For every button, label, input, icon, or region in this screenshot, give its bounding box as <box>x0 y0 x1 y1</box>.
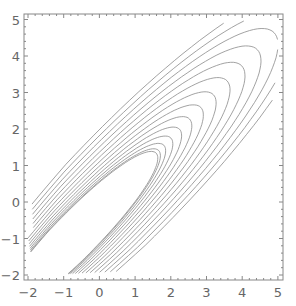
contour-line <box>32 23 272 271</box>
y-tick-label: 2 <box>12 122 20 137</box>
y-axis-tick-labels: −2−1012345 <box>1 13 20 284</box>
y-tick-label: 3 <box>12 86 20 101</box>
x-tick-label: 5 <box>274 285 282 300</box>
plot-frame <box>24 14 283 280</box>
contour-plot: −2−1012345 −2−1012345 <box>0 0 296 306</box>
y-tick-label: −2 <box>1 268 20 283</box>
contour-lines <box>28 21 278 274</box>
x-tick-label: −1 <box>54 285 73 300</box>
contour-line <box>32 21 275 272</box>
x-tick-label: 1 <box>131 285 139 300</box>
x-tick-label: 0 <box>95 285 103 300</box>
x-axis-tick-labels: −2−1012345 <box>18 285 282 300</box>
y-tick-label: 1 <box>12 159 20 174</box>
x-tick-label: 4 <box>238 285 246 300</box>
y-tick-label: 5 <box>12 13 20 28</box>
y-tick-label: 4 <box>12 49 20 64</box>
x-tick-label: −2 <box>18 285 37 300</box>
y-tick-label: 0 <box>12 195 20 210</box>
x-tick-label: 2 <box>167 285 175 300</box>
y-tick-label: −1 <box>1 232 20 247</box>
contour-line <box>30 136 173 274</box>
axis-ticks <box>24 14 283 280</box>
x-tick-label: 3 <box>202 285 210 300</box>
